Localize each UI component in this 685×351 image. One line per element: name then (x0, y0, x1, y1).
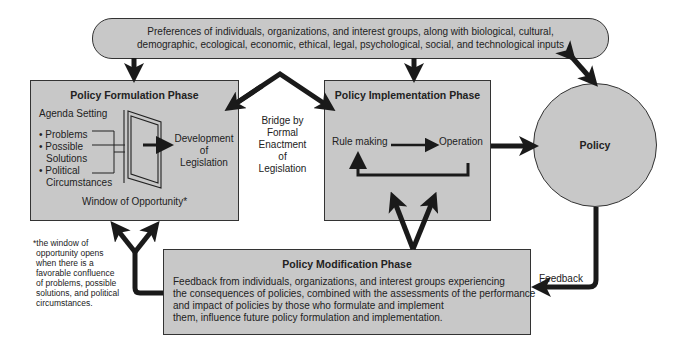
connector-layer (0, 0, 685, 351)
window-icon (124, 110, 161, 188)
arrow-operation-loop (358, 160, 468, 175)
arrow-modification-to-implementation (394, 200, 433, 249)
arrow-inputs-policy-bidirectional (570, 55, 592, 80)
bridge-arrow (232, 74, 328, 106)
arrow-feedback (540, 207, 596, 287)
agenda-bracket (92, 131, 125, 173)
arrow-modification-to-formulation (116, 228, 163, 293)
